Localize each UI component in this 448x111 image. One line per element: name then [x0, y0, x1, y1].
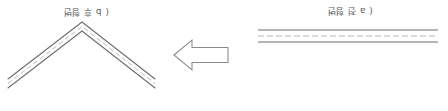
- process-arrow-icon: [174, 40, 228, 70]
- chevron-center-dashed-line: [8, 27, 155, 84]
- arrow-left-outline: [174, 40, 228, 70]
- flat-sheet-group: [258, 30, 438, 42]
- figure-canvas: ( b 후 형변 ( a 전 형변: [0, 0, 448, 111]
- panel-label-a: ( a 전 형변: [305, 5, 395, 18]
- chevron-inner-line: [8, 31, 155, 88]
- chevron-sheet-group: [8, 22, 155, 88]
- panel-label-b: ( b 후 형변: [46, 6, 126, 19]
